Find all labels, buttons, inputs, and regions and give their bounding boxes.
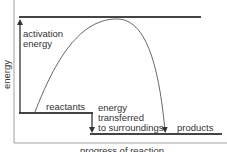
- x-axis-label: progress of reaction: [80, 146, 164, 152]
- reactants-label: reactants: [46, 102, 85, 112]
- activation-energy-label: activation energy: [23, 29, 63, 49]
- products-label: products: [177, 123, 213, 133]
- activation-label-line2: energy: [23, 39, 63, 49]
- transfer-label-line3: to surroundings: [98, 123, 163, 133]
- energy-transferred-label: energy transferred to surroundings: [98, 103, 163, 133]
- y-axis-label: energy: [1, 60, 12, 89]
